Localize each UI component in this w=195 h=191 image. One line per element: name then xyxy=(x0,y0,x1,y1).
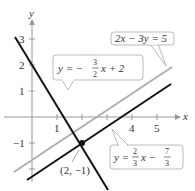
svg-text:2: 2 xyxy=(93,70,97,79)
tick-label-x5: 5 xyxy=(154,122,160,134)
svg-text:3: 3 xyxy=(93,58,97,67)
svg-text:2x − 3y = 5: 2x − 3y = 5 xyxy=(115,32,168,44)
svg-text:3: 3 xyxy=(165,159,169,168)
intersection-point xyxy=(79,140,85,146)
tick-label-yneg1: −1 xyxy=(13,137,25,149)
x-axis-label: x xyxy=(182,110,188,122)
svg-text:x −: x − xyxy=(140,151,156,163)
svg-text:2: 2 xyxy=(133,147,137,156)
svg-text:y =: y = xyxy=(113,151,129,163)
y-axis-label: y xyxy=(28,7,34,19)
svg-text:y = −: y = − xyxy=(57,62,83,74)
tick-label-y1: 1 xyxy=(19,85,25,97)
point-leader xyxy=(72,150,79,162)
tick-label-x4: 4 xyxy=(129,122,135,134)
graph: y x 1 4 5 3 2 1 −1 (2, −1) y = − 3 2 x +… xyxy=(0,0,195,191)
svg-text:7: 7 xyxy=(165,147,169,156)
svg-text:x + 2: x + 2 xyxy=(100,62,125,74)
callout-eq1: y = − 3 2 x + 2 xyxy=(53,55,143,90)
tick-label-x1: 1 xyxy=(54,122,60,134)
callout-eq3: y = 2 3 x − 7 3 xyxy=(110,129,183,169)
tick-label-y2: 2 xyxy=(19,59,25,71)
point-label: (2, −1) xyxy=(60,164,90,177)
svg-text:3: 3 xyxy=(133,159,137,168)
